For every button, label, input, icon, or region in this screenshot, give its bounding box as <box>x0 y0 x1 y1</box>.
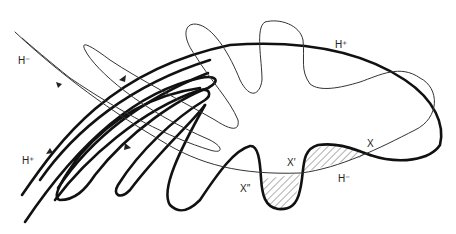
label-h-plus-left: H⁺ <box>22 155 34 166</box>
stable-manifold-h-plus <box>22 44 441 222</box>
label-x-double-prime: X″ <box>240 183 251 194</box>
label-x: X <box>367 138 374 149</box>
arrow-on-h-plus-lower <box>46 148 53 154</box>
arrow-on-h-minus-lower <box>124 143 131 150</box>
homoclinic-tangle-diagram: H⁻ H⁺ H⁺ H⁻ X X′ X″ <box>0 0 456 234</box>
label-h-minus-left: H⁻ <box>18 55 30 66</box>
label-h-plus-right: H⁺ <box>335 39 347 50</box>
label-h-minus-right: H⁻ <box>338 173 350 184</box>
arrow-on-h-minus <box>56 82 62 88</box>
label-x-prime: X′ <box>287 157 296 168</box>
unstable-manifold-h-minus <box>15 21 434 173</box>
arrow-on-h-plus-upper <box>119 75 126 82</box>
